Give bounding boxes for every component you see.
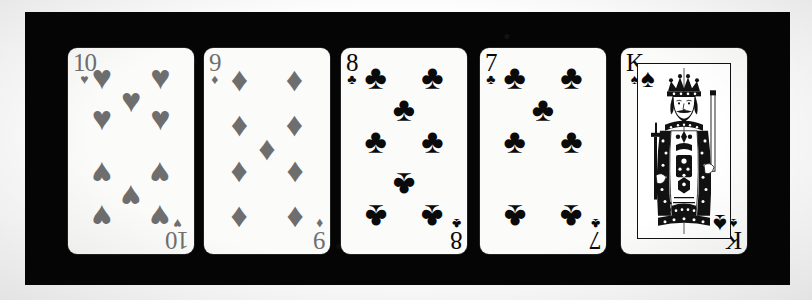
court-suit-spades-icon-bottom: ♠ — [713, 210, 727, 236]
suit-clubs-icon: ♣ — [486, 73, 495, 87]
pip-diamonds: ♦ — [231, 63, 248, 97]
suit-clubs-icon: ♣ — [452, 216, 461, 230]
pip-hearts: ♥ — [121, 84, 141, 118]
pip-clubs: ♣ — [560, 61, 582, 95]
pip-diamonds: ♦ — [231, 201, 248, 235]
suit-diamonds-icon: ♦ — [316, 216, 323, 230]
rank-label: 7 — [485, 52, 497, 74]
pip-diamonds: ♦ — [286, 201, 303, 235]
corner-index-top-left: 9♦ — [209, 52, 221, 87]
pip-clubs: ♣ — [503, 61, 525, 95]
corner-index-bottom-right: 7♣ — [590, 216, 602, 251]
pip-hearts: ♥ — [92, 199, 112, 233]
card-10-hearts[interactable]: 10♥10♥♥♥♥♥♥♥♥♥♥♥ — [68, 48, 194, 254]
pip-clubs: ♣ — [421, 61, 443, 95]
card-8-clubs[interactable]: 8♣8♣♣♣♣♣♣♣♣♣ — [341, 48, 467, 254]
pip-clubs: ♣ — [532, 93, 554, 127]
card-king-spades[interactable]: K♠K♠ — [621, 48, 747, 254]
corner-index-bottom-right: 8♣ — [451, 216, 463, 251]
pip-clubs: ♣ — [560, 199, 582, 233]
pip-hearts: ♥ — [92, 61, 112, 95]
pip-clubs: ♣ — [503, 199, 525, 233]
rank-label: 7 — [590, 229, 602, 251]
rank-label: 8 — [346, 52, 358, 74]
pip-field: ♣♣♣♣♣♣♣♣ — [361, 58, 447, 244]
pip-diamonds: ♦ — [258, 132, 275, 166]
photo-canvas: 10♥10♥♥♥♥♥♥♥♥♥♥♥9♦9♦♦♦♦♦♦♦♦♦♦8♣8♣♣♣♣♣♣♣♣… — [0, 0, 812, 300]
pip-clubs: ♣ — [421, 199, 443, 233]
pip-clubs: ♣ — [503, 125, 525, 159]
pip-hearts: ♥ — [150, 61, 170, 95]
pip-diamonds: ♦ — [231, 108, 248, 142]
pip-diamonds: ♦ — [286, 63, 303, 97]
rank-label: 9 — [209, 52, 221, 74]
pip-hearts: ♥ — [150, 156, 170, 190]
pip-hearts: ♥ — [92, 156, 112, 190]
corner-index-top-left: 7♣ — [485, 52, 497, 87]
king-scepter — [710, 90, 716, 171]
corner-index-bottom-right: 9♦ — [314, 216, 326, 251]
pip-diamonds: ♦ — [286, 156, 303, 190]
suit-clubs-icon: ♣ — [347, 73, 356, 87]
rank-label: 9 — [314, 229, 326, 251]
rank-label: 8 — [451, 229, 463, 251]
suit-hearts-icon: ♥ — [173, 216, 181, 230]
pip-clubs: ♣ — [364, 61, 386, 95]
card-7-clubs[interactable]: 7♣7♣♣♣♣♣♣♣♣ — [480, 48, 606, 254]
pip-clubs: ♣ — [421, 125, 443, 159]
pip-clubs: ♣ — [393, 167, 415, 201]
pip-clubs: ♣ — [560, 125, 582, 159]
court-suit-spades-icon-top: ♠ — [641, 66, 655, 92]
suit-clubs-icon: ♣ — [591, 216, 600, 230]
pip-diamonds: ♦ — [231, 156, 248, 190]
pip-clubs: ♣ — [364, 199, 386, 233]
pip-field: ♣♣♣♣♣♣♣ — [500, 58, 586, 244]
pip-hearts: ♥ — [150, 102, 170, 136]
corner-index-top-left: 8♣ — [346, 52, 358, 87]
pip-diamonds: ♦ — [286, 108, 303, 142]
pip-hearts: ♥ — [92, 102, 112, 136]
pip-field: ♥♥♥♥♥♥♥♥♥♥ — [88, 58, 174, 244]
card-9-diamonds[interactable]: 9♦9♦♦♦♦♦♦♦♦♦♦ — [204, 48, 330, 254]
pip-hearts: ♥ — [150, 199, 170, 233]
court-card-frame: ♠♠ — [637, 63, 731, 239]
suit-diamonds-icon: ♦ — [211, 73, 218, 87]
pip-field: ♦♦♦♦♦♦♦♦♦ — [224, 58, 310, 244]
pip-clubs: ♣ — [364, 125, 386, 159]
pip-hearts: ♥ — [121, 179, 141, 213]
pip-clubs: ♣ — [393, 93, 415, 127]
